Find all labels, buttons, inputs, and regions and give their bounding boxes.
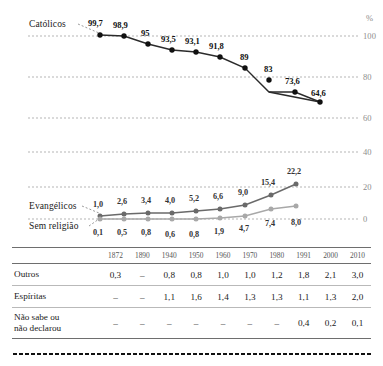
data-table-wrapper: 1872 1890 1940 1950 1960 1970 1980 1991 … xyxy=(12,248,371,339)
table-cell-outros-1960: 1,0 xyxy=(210,264,237,286)
line-chart: Católicos Evangélicos Sem religião % 100… xyxy=(0,0,383,245)
data-label-evangelicos-1970: 6,6 xyxy=(213,192,223,201)
data-label-evangelicos-1890: 2,6 xyxy=(117,197,127,206)
table-header-blank xyxy=(12,248,102,264)
data-label-sem-religiao-1980: 4,7 xyxy=(239,224,249,233)
bottom-dotted-rule xyxy=(12,352,371,356)
table-cell-nao-sabe-1980: – xyxy=(263,308,290,339)
data-label-catolicos-1890: 98,9 xyxy=(113,20,128,30)
data-label-evangelicos-1980: 9,0 xyxy=(238,188,248,197)
table-cell-espiritas-1890: – xyxy=(129,286,156,308)
table-header-row: 1872 1890 1940 1950 1960 1970 1980 1991 … xyxy=(12,248,371,264)
table-header-1980: 1980 xyxy=(263,248,290,264)
data-label-evangelicos-1991: 15,4 xyxy=(261,178,275,187)
series-label-sem-religiao: Sem religião xyxy=(29,221,78,231)
table-row: Espíritas – – 1,1 1,6 1,4 1,3 1,3 1,1 1,… xyxy=(12,286,371,308)
data-label-sem-religiao-1960: 0,8 xyxy=(189,230,199,239)
table-cell-nao-sabe-1970: – xyxy=(236,308,263,339)
table-header-1872: 1872 xyxy=(102,248,129,264)
data-label-catolicos-1991: 83 xyxy=(264,64,272,74)
y-tick-40: 40 xyxy=(363,147,372,157)
data-label-catolicos-1960: 93,1 xyxy=(185,36,200,46)
table-cell-espiritas-1872: – xyxy=(102,286,129,308)
data-label-evangelicos-1940: 3,4 xyxy=(141,196,151,205)
table-cell-outros-1950: 0,8 xyxy=(183,264,210,286)
series-label-evangelicos: Evangélicos xyxy=(29,201,77,211)
table-cell-outros-1872: 0,3 xyxy=(102,264,129,286)
table-cell-nao-sabe-1890: – xyxy=(129,308,156,339)
table-cell-outros-1980: 1,2 xyxy=(263,264,290,286)
table-row-label-espiritas: Espíritas xyxy=(12,286,102,308)
table-cell-outros-2000: 2,1 xyxy=(317,264,344,286)
data-label-evangelicos-1872: 1,0 xyxy=(93,200,103,209)
table-header-1970: 1970 xyxy=(236,248,263,264)
table-header-2010: 2010 xyxy=(344,248,371,264)
table-cell-espiritas-1950: 1,6 xyxy=(183,286,210,308)
data-label-evangelicos-1950: 4,0 xyxy=(165,196,175,205)
series-label-catolicos: Católicos xyxy=(29,19,66,29)
table-cell-outros-1970: 1,0 xyxy=(236,264,263,286)
gridlines xyxy=(28,36,360,219)
y-tick-20: 20 xyxy=(363,182,372,192)
data-label-catolicos-1950: 93,5 xyxy=(161,34,176,44)
data-table: 1872 1890 1940 1950 1960 1970 1980 1991 … xyxy=(12,248,371,339)
data-label-evangelicos-2000: 22,2 xyxy=(287,167,301,176)
data-label-sem-religiao-1991: 7,4 xyxy=(265,219,275,228)
table-cell-outros-1940: 0,8 xyxy=(156,264,183,286)
y-tick-60: 60 xyxy=(363,113,372,123)
table-row: Não sabe ounão declarou – – – – – – – 0,… xyxy=(12,308,371,339)
table-cell-espiritas-1970: 1,3 xyxy=(236,286,263,308)
table-cell-nao-sabe-1950: – xyxy=(183,308,210,339)
chart-figure: Católicos Evangélicos Sem religião % 100… xyxy=(0,0,383,366)
data-label-catolicos-1940: 95 xyxy=(141,28,149,38)
data-label-sem-religiao-1872: 0,1 xyxy=(93,228,103,237)
data-label-sem-religiao-2000: 8,0 xyxy=(291,218,301,227)
data-label-catolicos-1980: 89 xyxy=(240,52,248,62)
table-cell-outros-1890: – xyxy=(129,264,156,286)
table-cell-espiritas-1940: 1,1 xyxy=(156,286,183,308)
table-cell-nao-sabe-1991: 0,4 xyxy=(290,308,317,339)
table-row: Outros 0,3 – 0,8 0,8 1,0 1,0 1,2 1,8 2,1… xyxy=(12,264,371,286)
table-header-1950: 1950 xyxy=(183,248,210,264)
table-cell-nao-sabe-1960: – xyxy=(210,308,237,339)
leader-lines xyxy=(78,24,99,226)
y-tick-100: 100 xyxy=(363,31,376,41)
data-label-sem-religiao-1970: 1,9 xyxy=(214,227,224,236)
y-tick-80: 80 xyxy=(363,72,372,82)
data-label-evangelicos-1960: 5,2 xyxy=(189,194,199,203)
table-cell-espiritas-1960: 1,4 xyxy=(210,286,237,308)
table-cell-outros-1991: 1,8 xyxy=(290,264,317,286)
table-cell-espiritas-1991: 1,1 xyxy=(290,286,317,308)
data-label-catolicos-2000: 73,6 xyxy=(285,76,300,86)
table-cell-nao-sabe-1940: – xyxy=(156,308,183,339)
data-label-catolicos-1872: 99,7 xyxy=(88,18,103,28)
table-row-label-line2: não declarou xyxy=(14,323,61,333)
table-cell-nao-sabe-2010: 0,1 xyxy=(344,308,371,339)
table-header-1890: 1890 xyxy=(129,248,156,264)
table-header-1960: 1960 xyxy=(210,248,237,264)
table-cell-nao-sabe-2000: 0,2 xyxy=(317,308,344,339)
table-row-label-outros: Outros xyxy=(12,264,102,286)
y-axis-unit-label: % xyxy=(366,13,373,23)
table-cell-espiritas-2000: 1,3 xyxy=(317,286,344,308)
table-header-2000: 2000 xyxy=(317,248,344,264)
table-row-label-nao-sabe: Não sabe ounão declarou xyxy=(12,308,102,339)
data-label-sem-religiao-1940: 0,8 xyxy=(141,228,151,237)
table-header-1991: 1991 xyxy=(290,248,317,264)
table-row-label-line1: Não sabe ou xyxy=(14,312,59,322)
table-cell-espiritas-1980: 1,3 xyxy=(263,286,290,308)
data-label-catolicos-1970: 91,8 xyxy=(209,41,224,51)
table-cell-espiritas-2010: 2,0 xyxy=(344,286,371,308)
y-tick-0: 0 xyxy=(363,214,367,224)
data-label-sem-religiao-1950: 0,6 xyxy=(165,230,175,239)
data-label-sem-religiao-1890: 0,5 xyxy=(117,228,127,237)
data-label-catolicos-2010: 64,6 xyxy=(311,88,326,98)
table-cell-outros-2010: 3,0 xyxy=(344,264,371,286)
table-cell-nao-sabe-1872: – xyxy=(102,308,129,339)
table-header-1940: 1940 xyxy=(156,248,183,264)
